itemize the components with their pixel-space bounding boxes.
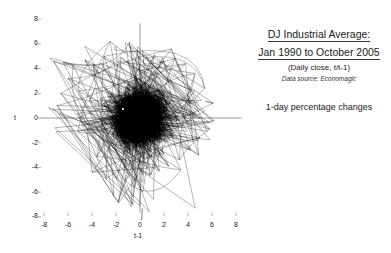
x-tick-neg6: -6	[59, 221, 77, 229]
x-tick-2: 2	[155, 221, 173, 229]
stray-speck	[122, 108, 124, 110]
y-tick-0: 0	[22, 114, 38, 122]
caption-subtitle: (Daily close, t/t-1)	[248, 62, 390, 73]
y-tick-neg2: -2	[22, 139, 38, 147]
y-tick-2: 2	[22, 89, 38, 97]
caption-note: 1-day percentage changes	[248, 101, 390, 113]
plot-region: 8 6 4 2 0 -2 -4 -6 -8 t -8 -6 -4 -2 0 2 …	[0, 0, 250, 253]
y-axis-title: t	[14, 114, 16, 121]
x-tick-6: 6	[203, 221, 221, 229]
x-tick-4: 4	[179, 221, 197, 229]
y-tick-6: 6	[22, 39, 38, 47]
caption-source: Data source: Economagic	[248, 74, 390, 83]
x-axis-title: t-1	[134, 232, 142, 239]
caption-title-line1: DJ Industrial Average:	[268, 28, 371, 42]
x-tick-neg2: -2	[107, 221, 125, 229]
caption-title-line1-wrap: DJ Industrial Average:	[248, 24, 390, 42]
y-tick-4: 4	[22, 64, 38, 72]
y-tick-8: 8	[22, 15, 38, 23]
x-tick-neg8: -8	[35, 221, 53, 229]
y-tick-neg8: -8	[22, 212, 38, 220]
caption-block: DJ Industrial Average: Jan 1990 to Octob…	[248, 24, 390, 113]
caption-title-line2: Jan 1990 to October 2005	[258, 46, 379, 60]
x-tick-neg4: -4	[83, 221, 101, 229]
chart-screenshot: 8 6 4 2 0 -2 -4 -6 -8 t -8 -6 -4 -2 0 2 …	[0, 0, 391, 253]
y-tick-neg4: -4	[22, 163, 38, 171]
x-tick-0: 0	[131, 221, 149, 229]
y-tick-neg6: -6	[22, 188, 38, 196]
caption-title-line2-wrap: Jan 1990 to October 2005	[248, 42, 390, 60]
x-tick-8: 8	[227, 221, 245, 229]
